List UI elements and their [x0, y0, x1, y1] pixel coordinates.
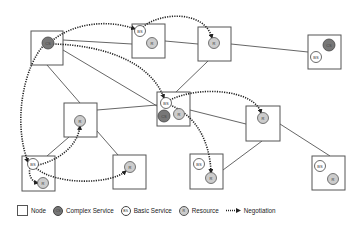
node-box-icon	[17, 205, 28, 216]
basic-service-j: BS	[194, 159, 205, 170]
basic-service-label: BS	[30, 162, 36, 167]
complex-service-label: CS	[45, 41, 51, 46]
resource-i: R	[125, 162, 136, 173]
resource-h: R	[38, 178, 49, 189]
resource-c: R	[209, 38, 220, 49]
resource-label: R	[210, 176, 213, 181]
resource-label: R	[129, 165, 132, 170]
legend-complex-service: CS Complex Service	[53, 206, 114, 216]
complex-service-e: CS	[158, 110, 170, 122]
basic-service-label: BS	[137, 29, 143, 34]
resource-k: R	[328, 174, 339, 185]
basic-service-e: BS	[161, 98, 172, 109]
link-e-g	[190, 110, 246, 124]
legend-negotiation: Negotiation	[226, 207, 276, 214]
resource-label: R	[151, 41, 154, 46]
basic-service-h: BS	[28, 159, 39, 170]
link-b-c	[165, 41, 198, 44]
resource-label: R	[332, 177, 335, 182]
link-a-f	[47, 65, 80, 103]
legend-basic-service-label: Basic Service	[134, 207, 172, 214]
nodes-layer	[22, 24, 345, 191]
legend: Node CS Complex Service BS Basic Service…	[17, 205, 283, 216]
legend-resource-label: Resource	[192, 207, 219, 214]
link-f-h	[47, 137, 69, 156]
link-c-d	[231, 44, 308, 52]
resource-label: R	[262, 116, 265, 121]
basic-service-label: BS	[313, 55, 319, 60]
complex-service-a: CS	[42, 37, 54, 49]
link-f-i	[97, 131, 118, 155]
basic-service-label: BS	[163, 101, 169, 106]
link-a-b	[63, 40, 132, 44]
negotiation-a-cs-b-bs	[52, 24, 135, 41]
resource-label: R	[79, 119, 82, 124]
resource-b: R	[147, 38, 158, 49]
legend-node-label: Node	[31, 207, 46, 214]
basic-service-label: BS	[196, 162, 202, 167]
node-j	[190, 154, 223, 189]
link-g-k	[280, 124, 330, 156]
basic-service-d: BS	[311, 52, 322, 63]
resource-j: R	[206, 173, 217, 184]
complex-service-d: CS	[323, 39, 335, 51]
resource-g: R	[258, 113, 269, 124]
complex-service-label: CS	[161, 114, 167, 119]
complex-service-icon: CS	[53, 206, 63, 216]
resource-f: R	[75, 116, 86, 127]
legend-resource: R Resource	[179, 206, 219, 216]
basic-service-icon: BS	[121, 206, 131, 216]
legend-node: Node	[17, 205, 46, 216]
resource-label: R	[178, 112, 181, 117]
link-g-j	[223, 141, 262, 170]
legend-negotiation-label: Negotiation	[244, 207, 276, 214]
complex-service-label: CS	[326, 43, 332, 48]
legend-basic-service: BS Basic Service	[121, 206, 172, 216]
negotiation-arrow-icon	[226, 207, 241, 214]
basic-service-k: BS	[315, 161, 326, 172]
legend-complex-service-label: Complex Service	[66, 207, 114, 214]
link-e-f	[97, 105, 157, 110]
network-diagram: CSBSRRCSBSBSCSRRRBSRRBSRBSR	[0, 0, 363, 231]
resource-icon: R	[179, 206, 189, 216]
basic-service-label: BS	[317, 164, 323, 169]
link-c-e	[176, 61, 208, 92]
resource-label: R	[42, 181, 45, 186]
resource-label: R	[213, 41, 216, 46]
resource-e: R	[174, 109, 185, 120]
basic-service-b: BS	[135, 26, 146, 37]
